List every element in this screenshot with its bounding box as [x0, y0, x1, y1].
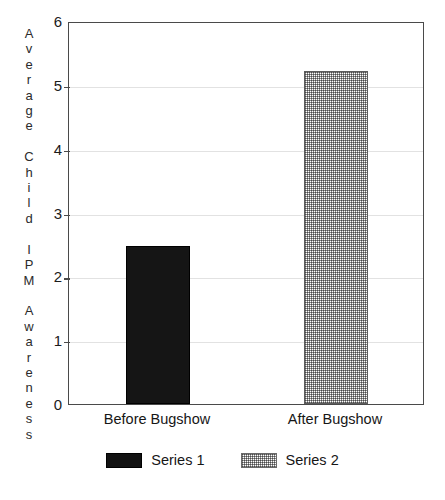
gridline: [69, 342, 423, 343]
legend-swatch-hatch: [241, 453, 277, 468]
legend-label: Series 1: [151, 452, 204, 468]
y-axis-tick-label: 0: [42, 397, 62, 412]
x-axis-category-label: Before Bugshow: [68, 409, 246, 429]
y-axis-tickmark: [64, 87, 70, 88]
bar-before-bugshow: [126, 246, 190, 404]
y-axis-tick-label: 3: [42, 206, 62, 221]
y-axis-tick-label: 2: [42, 269, 62, 284]
gridline: [69, 151, 423, 152]
y-axis-tickmark: [64, 342, 70, 343]
y-axis-tickmark: [64, 215, 70, 216]
y-axis-tickmark: [64, 278, 70, 279]
y-axis-tick-label: 5: [42, 78, 62, 93]
y-axis-tick-labels: 0123456: [40, 0, 62, 440]
legend-swatch-solid: [106, 453, 142, 468]
y-axis-tickmark: [64, 151, 70, 152]
gridline: [69, 87, 423, 88]
y-axis-tick-label: 6: [42, 14, 62, 29]
bar-after-bugshow: [304, 71, 368, 404]
y-axis-tick-label: 1: [42, 333, 62, 348]
gridline: [69, 278, 423, 279]
y-axis-title: A v e r a g e C h i l d I P M A w a r e …: [16, 26, 42, 442]
chart-legend: Series 1Series 2: [0, 452, 445, 468]
x-axis-tick-labels: Before BugshowAfter Bugshow: [68, 409, 424, 433]
legend-item[interactable]: Series 2: [241, 452, 339, 468]
x-axis-category-label: After Bugshow: [246, 409, 424, 429]
bar-chart: A v e r a g e C h i l d I P M A w a r e …: [0, 0, 445, 500]
legend-label: Series 2: [286, 452, 339, 468]
legend-item[interactable]: Series 1: [106, 452, 204, 468]
y-axis-tick-label: 4: [42, 142, 62, 157]
gridline: [69, 215, 423, 216]
plot-area: [68, 22, 424, 405]
